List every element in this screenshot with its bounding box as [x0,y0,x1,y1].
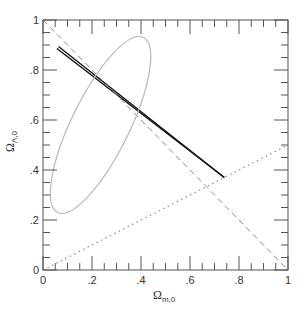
y-tick-label: .4 [30,164,39,176]
y-tick-label: .2 [30,214,39,226]
y-axis-label: ΩΛ,0 [3,131,19,152]
x-tick-label: 0 [40,274,46,286]
x-tick-label: .4 [136,274,145,286]
y-tick-label: 1 [33,14,39,26]
confidence-ellipse [32,25,170,226]
y-tick-label: 0 [33,264,39,276]
deceleration-dotted-line [43,145,288,270]
y-tick-label: .8 [30,64,39,76]
constraint-band-edge-lower [58,46,224,177]
x-tick-label: 1 [285,274,291,286]
x-axis-label: Ωm,0 [153,288,176,304]
x-tick-label: .6 [185,274,194,286]
plot-lines [32,20,288,270]
flat-universe-dashed-line [43,20,288,270]
y-tick-label: .6 [30,114,39,126]
chart-figure: 0.2.4.6.810.2.4.6.81 Ωm,0 ΩΛ,0 [0,0,306,313]
x-tick-label: .2 [87,274,96,286]
x-tick-label: .8 [234,274,243,286]
